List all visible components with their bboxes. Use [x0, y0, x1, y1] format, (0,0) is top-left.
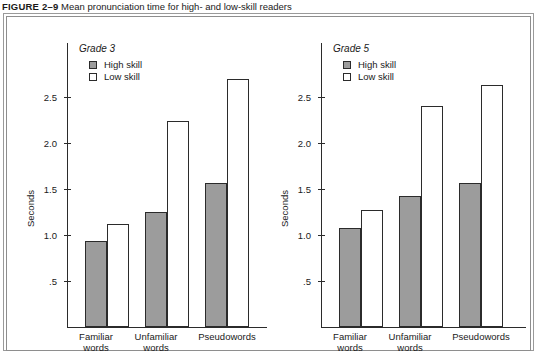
- y-tick-2-5-grade-5: [318, 97, 325, 98]
- y-axis-grade-5: [321, 43, 322, 327]
- y-axis-label-grade-5: Seconds: [279, 190, 290, 227]
- y-axis-grade-3: [67, 43, 68, 327]
- y-tick-label-0-5-grade-3: .5: [27, 276, 57, 287]
- x-category-line1: Pseudowords: [186, 331, 268, 342]
- figure-frame-inner: Grade 3 High skill Low skill .5 1.0 1.5 …: [6, 16, 531, 351]
- y-tick-label-0-5-grade-5: .5: [281, 276, 311, 287]
- chart-panel-grade-3: Grade 3 High skill Low skill .5 1.0 1.5 …: [21, 37, 271, 347]
- y-tick-1-5-grade-5: [318, 189, 325, 190]
- x-category-label-pseudowords-grade-3: Pseudowords: [186, 331, 268, 342]
- bar-grade3-unfamiliar-high: [145, 212, 167, 327]
- x-category-line2: words: [331, 342, 369, 353]
- bar-grade3-familiar-low: [107, 224, 129, 327]
- x-axis-grade-3: [67, 327, 267, 328]
- y-tick-2-5-grade-3: [64, 97, 71, 98]
- y-tick-label-1-0-grade-5: 1.0: [281, 230, 311, 241]
- bar-grade5-familiar-low: [361, 210, 383, 327]
- chart-panel-grade-5: Grade 5 High skill Low skill .5 1.0 1.5 …: [275, 37, 530, 347]
- y-tick-1-0-grade-5: [318, 235, 325, 236]
- legend-label-low-skill: Low skill: [104, 71, 140, 83]
- legend-label-low-skill: Low skill: [358, 71, 394, 83]
- figure-caption: FIGURE 2–9 Mean pronunciation time for h…: [2, 0, 292, 14]
- bar-grade5-unfamiliar-high: [399, 196, 421, 327]
- legend-item-low-skill: Low skill: [89, 71, 142, 83]
- x-category-line1: Pseudowords: [440, 331, 522, 342]
- y-tick-label-1-0-grade-3: 1.0: [27, 230, 57, 241]
- y-tick-1-5-grade-3: [64, 189, 71, 190]
- x-category-label-familiar-grade-3: Familiar words: [77, 331, 115, 353]
- legend-grade-5: High skill Low skill: [343, 59, 396, 83]
- x-category-label-pseudowords-grade-5: Pseudowords: [440, 331, 522, 342]
- legend-item-high-skill: High skill: [89, 59, 142, 71]
- bar-grade5-pseudowords-high: [459, 183, 481, 327]
- legend-grade-3: High skill Low skill: [89, 59, 142, 83]
- bar-grade5-pseudowords-low: [481, 85, 503, 327]
- legend-label-high-skill: High skill: [104, 59, 142, 71]
- bar-grade3-familiar-high: [85, 241, 107, 327]
- x-category-line2: words: [386, 342, 434, 353]
- x-category-line1: Unfamiliar: [132, 331, 180, 342]
- y-axis-label-grade-3: Seconds: [25, 190, 36, 227]
- legend-swatch-low-skill-icon: [343, 73, 351, 81]
- y-tick-label-2-0-grade-3: 2.0: [27, 138, 57, 149]
- x-category-line2: words: [132, 342, 180, 353]
- x-category-line1: Unfamiliar: [386, 331, 434, 342]
- x-axis-grade-5: [321, 327, 526, 328]
- panel-title-grade-5: Grade 5: [333, 43, 369, 54]
- bar-grade5-unfamiliar-low: [421, 106, 443, 327]
- y-tick-1-0-grade-3: [64, 235, 71, 236]
- legend-swatch-high-skill-icon: [89, 61, 97, 69]
- y-tick-0-5-grade-5: [318, 281, 325, 282]
- y-tick-0-5-grade-3: [64, 281, 71, 282]
- figure-number: FIGURE 2–9: [2, 1, 58, 12]
- x-category-line1: Familiar: [331, 331, 369, 342]
- bar-grade3-pseudowords-high: [205, 183, 227, 327]
- y-tick-label-2-5-grade-5: 2.5: [281, 92, 311, 103]
- x-category-line1: Familiar: [77, 331, 115, 342]
- legend-swatch-high-skill-icon: [343, 61, 351, 69]
- x-category-label-familiar-grade-5: Familiar words: [331, 331, 369, 353]
- legend-swatch-low-skill-icon: [89, 73, 97, 81]
- figure-caption-text: Mean pronunciation time for high- and lo…: [61, 1, 292, 12]
- panel-title-grade-3: Grade 3: [79, 43, 115, 54]
- y-tick-label-2-5-grade-3: 2.5: [27, 92, 57, 103]
- bar-grade3-pseudowords-low: [227, 79, 249, 327]
- x-category-line2: words: [77, 342, 115, 353]
- y-tick-2-0-grade-3: [64, 143, 71, 144]
- bar-grade5-familiar-high: [339, 228, 361, 327]
- y-tick-label-2-0-grade-5: 2.0: [281, 138, 311, 149]
- x-category-label-unfamiliar-grade-5: Unfamiliar words: [386, 331, 434, 353]
- legend-item-high-skill: High skill: [343, 59, 396, 71]
- bar-grade3-unfamiliar-low: [167, 121, 189, 327]
- legend-item-low-skill: Low skill: [343, 71, 396, 83]
- legend-label-high-skill: High skill: [358, 59, 396, 71]
- y-tick-2-0-grade-5: [318, 143, 325, 144]
- x-category-label-unfamiliar-grade-3: Unfamiliar words: [132, 331, 180, 353]
